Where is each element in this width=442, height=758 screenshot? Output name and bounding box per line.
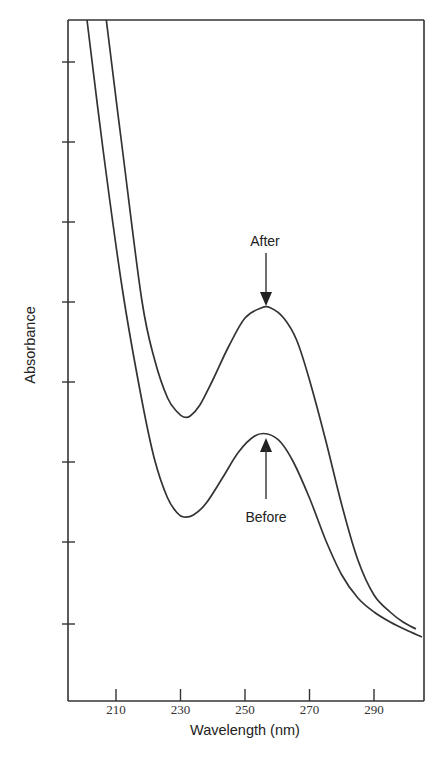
plot-frame xyxy=(68,20,424,701)
before-spectrum-curve xyxy=(87,20,422,637)
x-tick-label: 250 xyxy=(235,702,255,717)
x-tick-label: 210 xyxy=(106,702,126,717)
y-axis-title: Absorbance xyxy=(22,306,38,383)
x-tick-label: 270 xyxy=(300,702,320,717)
before-annotation: Before xyxy=(245,438,286,525)
x-tick-label: 230 xyxy=(171,702,191,717)
before-label: Before xyxy=(245,509,286,525)
after-label: After xyxy=(250,233,280,249)
x-axis-ticks: 210230250270290 xyxy=(106,689,384,717)
after-arrowhead-icon xyxy=(260,292,272,306)
after-spectrum-curve xyxy=(106,20,416,629)
x-axis-title: Wavelength (nm) xyxy=(190,722,300,738)
absorbance-spectrum-chart: 210230250270290 After Before Wavelength … xyxy=(0,0,442,758)
x-tick-label: 290 xyxy=(364,702,384,717)
after-annotation: After xyxy=(250,233,280,306)
